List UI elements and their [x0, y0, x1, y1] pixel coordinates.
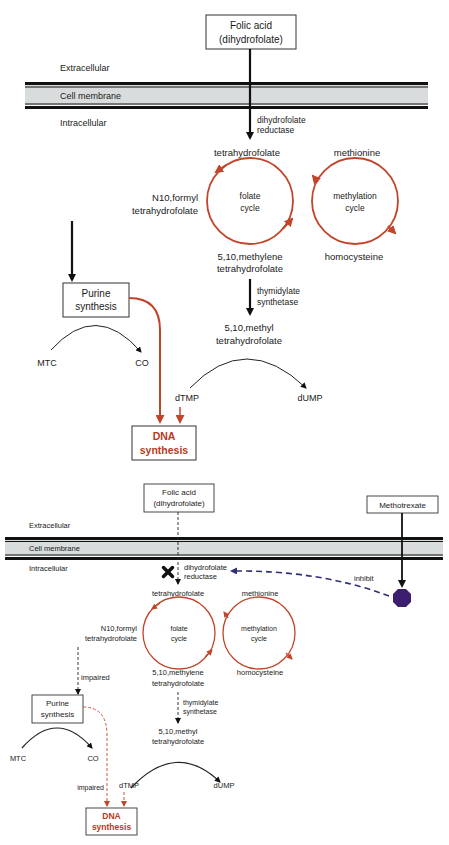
n10-formyl-label: N10,formyl	[152, 192, 198, 203]
methylation-cycle-2: methylation cycle	[223, 597, 295, 669]
panel-inhibited: Extracellular Cell membrane Intracellula…	[5, 484, 443, 835]
folate-pathway-diagram: Extracellular Cell membrane Intracellula…	[0, 0, 449, 845]
methylene-thf-label-2: 5,10,methylene	[152, 668, 203, 677]
svg-text:tetrahydrofolate: tetrahydrofolate	[152, 737, 204, 746]
svg-text:Folic acid: Folic acid	[162, 488, 196, 497]
thf-label: tetrahydrofolate	[214, 147, 280, 158]
n10-formyl-label-2: N10,formyl	[101, 624, 138, 633]
svg-text:synthesis: synthesis	[140, 444, 189, 456]
svg-text:(dihydrofolate): (dihydrofolate)	[153, 499, 204, 508]
svg-text:methylation: methylation	[333, 191, 377, 201]
svg-text:tetrahydrofolate: tetrahydrofolate	[217, 263, 283, 274]
intracellular-label-2: Intracellular	[29, 564, 68, 573]
svg-text:synthetase: synthetase	[183, 708, 217, 716]
extracellular-label: Extracellular	[60, 63, 110, 73]
svg-text:Methotrexate: Methotrexate	[379, 501, 426, 510]
svg-text:folate: folate	[240, 191, 261, 201]
svg-text:tetrahydrofolate: tetrahydrofolate	[152, 679, 204, 688]
arrow-dtmp-dump-2	[131, 762, 220, 788]
svg-text:Folic acid: Folic acid	[230, 20, 272, 31]
cell-membrane-label: Cell membrane	[60, 91, 121, 101]
enzyme-dhfr-label: dihydrofolate	[257, 115, 306, 125]
enzyme-ts-label-2: thymidylate	[183, 699, 219, 707]
panel-normal: Extracellular Cell membrane Intracellula…	[25, 15, 428, 460]
svg-text:cycle: cycle	[171, 635, 187, 643]
dtmp-label-2: dTMP	[119, 781, 139, 790]
arrow-mtc-co-2	[22, 728, 92, 748]
mtc-label: MTC	[37, 358, 57, 368]
methotrexate-box: Methotrexate	[367, 496, 438, 513]
methotrexate-molecule-icon	[393, 589, 411, 607]
dtmp-label: dTMP	[175, 393, 199, 403]
svg-text:tetrahydrofolate: tetrahydrofolate	[132, 205, 198, 216]
methylene-thf-label: 5,10,methylene	[218, 251, 283, 262]
arrow-dtmp-dump	[190, 359, 306, 388]
homocysteine-label: homocysteine	[325, 251, 384, 262]
methyl-thf-label: 5,10,methyl	[224, 322, 273, 333]
svg-text:synthesis: synthesis	[75, 301, 117, 312]
impaired-label-2: impaired	[77, 784, 104, 792]
co-label-2: CO	[87, 754, 98, 763]
svg-text:tetrahydrofolate: tetrahydrofolate	[216, 335, 282, 346]
folate-cycle: folate cycle	[207, 158, 293, 244]
svg-text:cycle: cycle	[240, 203, 260, 213]
methyl-thf-label-2: 5,10,methyl	[159, 727, 198, 736]
svg-text:reductase: reductase	[257, 125, 295, 135]
homocysteine-label-2: homocysteine	[237, 668, 283, 677]
dna-synthesis-box: DNA synthesis	[132, 426, 196, 460]
enzyme-dhfr-label-2: dihydrofolate	[184, 563, 227, 572]
svg-text:DNA: DNA	[102, 811, 120, 821]
methylation-cycle: methylation cycle	[312, 158, 398, 244]
purine-synthesis-box-2: Purine synthesis	[32, 695, 83, 723]
co-label: CO	[135, 358, 149, 368]
svg-text:reductase: reductase	[184, 572, 217, 581]
svg-text:methylation: methylation	[241, 625, 277, 633]
svg-text:synthesis: synthesis	[92, 822, 131, 832]
svg-text:tetrahydrofolate: tetrahydrofolate	[85, 634, 137, 643]
svg-text:Purine: Purine	[46, 699, 70, 708]
purine-synthesis-box: Purine synthesis	[63, 283, 129, 317]
svg-text:DNA: DNA	[153, 430, 176, 442]
impaired-label-1: impaired	[81, 673, 110, 682]
svg-text:(dihydrofolate): (dihydrofolate)	[219, 34, 283, 45]
methionine-label: methionine	[334, 147, 380, 158]
inhibit-label: inhibit	[354, 574, 375, 583]
svg-text:cycle: cycle	[345, 203, 365, 213]
intracellular-label: Intracellular	[60, 118, 107, 128]
svg-text:folate: folate	[170, 625, 187, 632]
extracellular-label-2: Extracellular	[29, 521, 71, 530]
dump-label-2: dUMP	[214, 781, 235, 790]
folate-cycle-2: folate cycle	[143, 597, 215, 669]
dna-synthesis-box-2: DNA synthesis	[86, 808, 137, 835]
svg-text:Purine: Purine	[82, 288, 111, 299]
svg-text:synthetase: synthetase	[257, 297, 298, 307]
arrow-mtc-co	[51, 325, 141, 352]
dump-label: dUMP	[297, 393, 322, 403]
svg-text:cycle: cycle	[251, 635, 267, 643]
enzyme-ts-label: thymidylate	[257, 286, 300, 296]
cell-membrane-label-2: Cell membrane	[29, 544, 80, 553]
folic-acid-box: Folic acid (dihydrofolate)	[206, 15, 296, 49]
blocked-x-icon	[164, 568, 173, 577]
svg-text:synthesis: synthesis	[41, 710, 74, 719]
folic-acid-box-2: Folic acid (dihydrofolate)	[144, 484, 214, 512]
mtc-label-2: MTC	[10, 754, 27, 763]
